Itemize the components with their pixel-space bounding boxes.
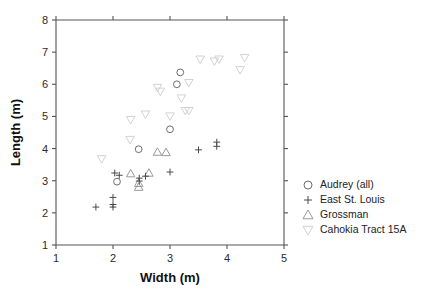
series-circle bbox=[114, 69, 184, 185]
y-tick-label: 2 bbox=[42, 207, 48, 219]
marker-triangle-down bbox=[236, 67, 245, 74]
marker-triangle-up bbox=[162, 148, 171, 155]
y-tick-label: 1 bbox=[42, 239, 48, 251]
marker-plus bbox=[167, 169, 174, 176]
marker-circle bbox=[304, 181, 312, 189]
marker-circle bbox=[135, 146, 142, 153]
y-tick-label: 8 bbox=[42, 14, 48, 26]
marker-triangle-down bbox=[240, 54, 249, 61]
marker-plus bbox=[136, 175, 143, 182]
marker-triangle-up bbox=[126, 169, 135, 176]
y-tick-label: 5 bbox=[42, 110, 48, 122]
legend-label-0: Audrey (all) bbox=[320, 178, 374, 190]
marker-circle bbox=[173, 81, 180, 88]
marker-circle bbox=[114, 178, 121, 185]
y-axis-title: Length (m) bbox=[8, 99, 23, 166]
marker-triangle-down bbox=[196, 56, 205, 63]
x-tick-label: 3 bbox=[167, 252, 173, 264]
marker-circle bbox=[167, 126, 174, 133]
marker-plus bbox=[213, 139, 220, 146]
y-tick-label: 4 bbox=[42, 143, 48, 155]
marker-triangle-up bbox=[303, 210, 313, 219]
marker-plus bbox=[93, 204, 100, 211]
marker-plus bbox=[304, 196, 312, 204]
x-tick-label: 4 bbox=[224, 252, 230, 264]
legend-label-3: Cahokia Tract 15A bbox=[320, 223, 406, 235]
legend-label-1: East St. Louis bbox=[320, 193, 385, 205]
marker-plus bbox=[195, 146, 202, 153]
marker-triangle-down bbox=[126, 136, 135, 143]
marker-triangle-down bbox=[141, 111, 150, 118]
y-tick-label: 7 bbox=[42, 46, 48, 58]
y-tick-label: 3 bbox=[42, 175, 48, 187]
series-triangle-up bbox=[126, 148, 170, 190]
legend-label-2: Grossman bbox=[320, 208, 369, 220]
x-tick-label: 1 bbox=[53, 252, 59, 264]
marker-triangle-down bbox=[126, 116, 135, 123]
scatter-plot-figure: 1234567812345Width (m)Length (m)Audrey (… bbox=[0, 0, 425, 301]
x-axis-title: Width (m) bbox=[140, 270, 200, 285]
marker-triangle-down bbox=[185, 79, 194, 86]
series-triangle-down bbox=[97, 54, 249, 163]
chart-canvas: 1234567812345Width (m)Length (m)Audrey (… bbox=[0, 0, 425, 301]
marker-triangle-down bbox=[303, 226, 313, 235]
marker-triangle-down bbox=[166, 113, 175, 120]
marker-triangle-down bbox=[177, 95, 186, 102]
marker-circle bbox=[177, 69, 184, 76]
y-tick-label: 6 bbox=[42, 78, 48, 90]
marker-plus bbox=[142, 173, 149, 180]
x-tick-label: 2 bbox=[110, 252, 116, 264]
marker-triangle-up bbox=[153, 148, 162, 155]
x-tick-label: 5 bbox=[281, 252, 287, 264]
marker-plus bbox=[110, 194, 117, 201]
marker-triangle-down bbox=[97, 156, 106, 163]
